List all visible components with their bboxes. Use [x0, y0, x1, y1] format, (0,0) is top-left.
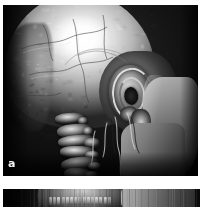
figure-root: a: [0, 0, 204, 207]
base-shadow: [3, 152, 198, 176]
panel-b-left-shadow: [3, 189, 39, 207]
ct-rendering-a: a: [3, 5, 198, 176]
left-edge-shadow: [3, 5, 29, 176]
right-edge-shadow: [180, 5, 198, 176]
neck-vessels: [3, 5, 198, 176]
panel-a-label: a: [8, 158, 15, 169]
figure-panel-b: [3, 189, 200, 207]
figure-panel-a: a: [3, 5, 198, 176]
